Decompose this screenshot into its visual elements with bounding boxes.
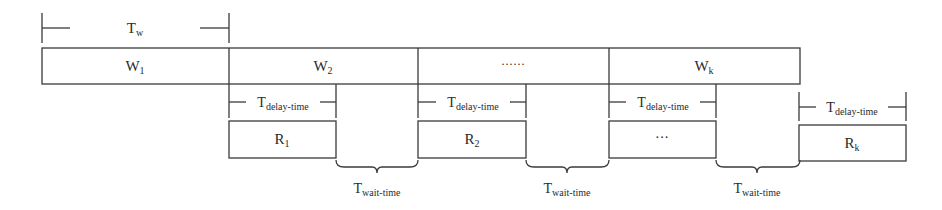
window-label-2: W2 — [313, 58, 332, 76]
result-label-2: R2 — [464, 131, 479, 149]
delay-label-k: Tdelay-time — [826, 100, 878, 117]
window-label-k: Wk — [694, 58, 713, 76]
wait-label-1: Twait-time — [354, 181, 401, 198]
window-label-1: W1 — [125, 58, 144, 76]
wait-brace-2 — [526, 160, 609, 173]
tw-label: Tw — [127, 20, 144, 38]
wait-label-2: Twait-time — [544, 181, 591, 198]
window-label-ellipsis: ······ — [501, 57, 525, 71]
result-label-ellipsis: ··· — [655, 130, 669, 145]
window-row — [42, 48, 800, 84]
result-label-k: Rk — [844, 135, 859, 153]
delay-label-2: Tdelay-time — [447, 95, 499, 112]
delay-label-1: Tdelay-time — [257, 95, 309, 112]
wait-brace-3 — [716, 160, 800, 173]
wait-label-3: Twait-time — [734, 181, 781, 198]
delay-label-3: Tdelay-time — [637, 95, 689, 112]
timing-diagram: Tw W1 W2 ······ Wk Tdelay-time Tdelay-ti… — [0, 0, 942, 210]
result-label-1: R1 — [274, 131, 289, 149]
wait-brace-1 — [336, 160, 418, 173]
